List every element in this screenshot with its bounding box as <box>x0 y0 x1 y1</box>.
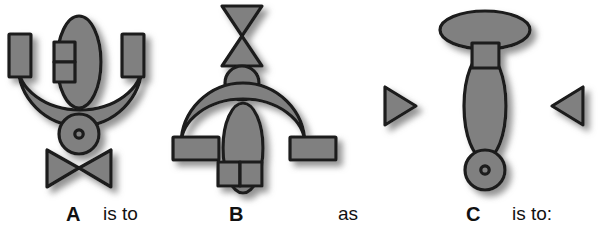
figure-c <box>0 0 598 232</box>
left-triangle-c <box>385 87 416 125</box>
ringed-circle-dot-c <box>481 166 489 174</box>
figure-c-group <box>385 11 583 190</box>
puzzle-canvas: A is to B as C is to: <box>0 0 598 232</box>
right-triangle-c <box>552 87 583 125</box>
center-square-c <box>472 43 499 68</box>
